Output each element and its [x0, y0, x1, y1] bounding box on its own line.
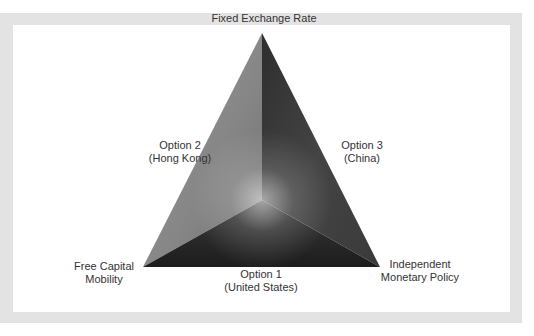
option-3-label: Option 3 (China) — [327, 139, 397, 165]
vertex-label-independent-monetary-policy: Independent Monetary Policy — [370, 258, 470, 284]
vertex-label-fixed-exchange-rate: Fixed Exchange Rate — [196, 12, 332, 25]
option-1-label: Option 1 (United States) — [216, 268, 306, 294]
vertex-label-free-capital-mobility: Free Capital Mobility — [64, 260, 144, 286]
option-2-label: Option 2 (Hong Kong) — [140, 139, 220, 165]
